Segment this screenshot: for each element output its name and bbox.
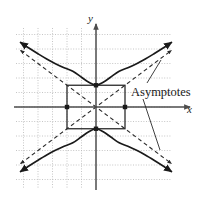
annotation-leader-lines xyxy=(143,60,161,150)
asymptotes-label: Asymptotes xyxy=(131,85,191,99)
y-axis-label: y xyxy=(87,12,93,24)
plot-canvas: x y Asymptotes xyxy=(0,0,199,199)
x-axis-label: x xyxy=(186,103,192,115)
hyperbola-figure: x y Asymptotes xyxy=(0,0,199,199)
